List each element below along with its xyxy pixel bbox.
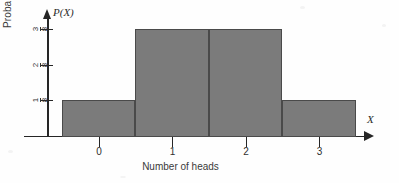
x-axis-title-wrapper: Number of heads <box>0 161 399 172</box>
x-tick-label-1: 1 <box>163 146 183 157</box>
bar-1-head <box>135 29 209 137</box>
bar-series <box>0 0 399 183</box>
bar-0-heads <box>62 100 135 137</box>
bar-3-heads <box>282 100 356 137</box>
x-tick-label-3: 3 <box>310 146 330 157</box>
probability-histogram-figure: Probability P(X) X 3 8 2 8 1 8 0 <box>0 0 399 183</box>
bar-2-heads <box>209 29 282 137</box>
x-tick-label-0: 0 <box>89 146 109 157</box>
x-tick-label-2: 2 <box>236 146 256 157</box>
x-axis-title: Number of heads <box>142 161 219 172</box>
